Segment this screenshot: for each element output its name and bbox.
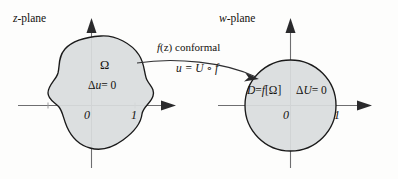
z-plane-title-suffix: -plane <box>17 12 46 24</box>
z-plane-title: z-plane <box>13 13 46 25</box>
w-plane-title-symbol: w <box>219 12 227 24</box>
w-plane-tick-label-0: 0 <box>283 109 289 121</box>
z-plane-imaginary-axis-arrowhead <box>87 18 97 33</box>
w-plane-imaginary-axis-arrowhead <box>286 18 296 33</box>
conformal-map-bottom-label: u = U ∘ f <box>176 63 218 75</box>
laplace-U-rhs: = 0 <box>312 84 327 96</box>
map-conformal-word: conformal <box>175 41 220 53</box>
image-domain-argument: [Ω] <box>265 84 281 96</box>
figure-canvas <box>0 0 398 179</box>
unit-disk-shape <box>245 60 336 151</box>
conformal-map-top-label: f(z) conformal <box>157 42 220 53</box>
laplace-equation-U: ΔU= 0 <box>296 85 327 97</box>
omega-label: Ω <box>100 59 109 72</box>
laplace-u-rhs: = 0 <box>101 79 116 91</box>
z-plane-tick-label-0: 0 <box>84 109 90 121</box>
laplace-equation-u: Δu= 0 <box>88 80 116 92</box>
map-function-argument: (z) <box>160 41 172 53</box>
w-plane-title-suffix: -plane <box>227 12 256 24</box>
conformal-mapping-figure: z-plane Ω Δu= 0 0 1 f(z) conformal u = U… <box>0 0 398 179</box>
omega-region-shape <box>48 36 153 149</box>
w-plane-tick-label-1: 1 <box>334 109 340 121</box>
w-plane-title: w-plane <box>219 13 255 25</box>
w-plane-real-axis-arrowhead <box>357 101 372 111</box>
z-plane-tick-label-1: 1 <box>131 109 137 121</box>
image-domain-label: D=f[Ω] <box>247 85 281 97</box>
U-variable: U <box>303 84 311 96</box>
z-plane-real-axis-arrowhead <box>161 101 176 111</box>
